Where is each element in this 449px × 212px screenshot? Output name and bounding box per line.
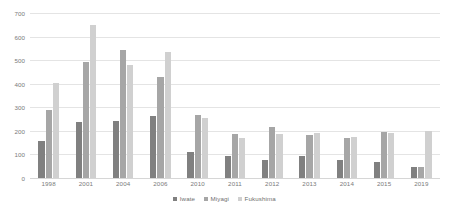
bar-group-2006 xyxy=(150,13,171,178)
chart-title xyxy=(0,0,449,3)
y-axis-tick-600: 600 xyxy=(14,33,25,40)
x-axis: 1998200120042006201020112012201320142015… xyxy=(30,178,440,190)
legend-label-fukushima: Fukushima xyxy=(245,195,276,203)
bar-group-2011 xyxy=(225,13,246,178)
legend-swatch-icon-miyagi xyxy=(204,197,208,201)
bar-group-2001 xyxy=(76,13,97,178)
bar-iwate-2014[interactable] xyxy=(337,160,343,178)
bar-miyagi-2019[interactable] xyxy=(418,167,424,178)
bar-miyagi-2012[interactable] xyxy=(269,127,275,178)
y-axis-tick-500: 500 xyxy=(14,57,25,64)
bar-iwate-1998[interactable] xyxy=(38,141,44,178)
bar-fukushima-2004[interactable] xyxy=(127,65,133,178)
bar-miyagi-2011[interactable] xyxy=(232,134,238,178)
bar-fukushima-2011[interactable] xyxy=(239,138,245,178)
bar-fukushima-2019[interactable] xyxy=(425,131,431,178)
bar-miyagi-2001[interactable] xyxy=(83,62,89,178)
bar-group-1998 xyxy=(38,13,59,178)
y-axis-tick-300: 300 xyxy=(14,104,25,111)
x-axis-tick-2019: 2019 xyxy=(414,178,428,189)
legend-item-miyagi[interactable]: Miyagi xyxy=(204,195,229,203)
x-axis-tick-2013: 2013 xyxy=(302,178,316,189)
x-axis-tick-2015: 2015 xyxy=(377,178,391,189)
y-axis-tick-200: 200 xyxy=(14,127,25,134)
x-axis-tick-2011: 2011 xyxy=(228,178,242,189)
bar-miyagi-1998[interactable] xyxy=(46,110,52,178)
bar-miyagi-2004[interactable] xyxy=(120,50,126,178)
y-axis-tick-700: 700 xyxy=(14,10,25,17)
bar-fukushima-2001[interactable] xyxy=(90,25,96,178)
legend-item-iwate[interactable]: Iwate xyxy=(173,195,195,203)
bar-iwate-2001[interactable] xyxy=(76,122,82,178)
x-axis-tick-2004: 2004 xyxy=(116,178,130,189)
bar-group-2004 xyxy=(113,13,134,178)
x-axis-tick-2001: 2001 xyxy=(79,178,93,189)
bar-fukushima-2014[interactable] xyxy=(351,137,357,178)
bar-iwate-2013[interactable] xyxy=(299,156,305,178)
bar-group-2012 xyxy=(262,13,283,178)
legend-label-miyagi: Miyagi xyxy=(211,195,229,203)
x-axis-tick-2012: 2012 xyxy=(265,178,279,189)
bar-chart: 0100200300400500600700 19982001200420062… xyxy=(0,0,449,212)
bar-group-2015 xyxy=(374,13,395,178)
legend-item-fukushima[interactable]: Fukushima xyxy=(238,195,276,203)
bar-fukushima-2010[interactable] xyxy=(202,118,208,178)
y-axis: 0100200300400500600700 xyxy=(0,13,28,178)
bar-miyagi-2015[interactable] xyxy=(381,132,387,178)
bar-fukushima-2006[interactable] xyxy=(165,52,171,178)
chart-legend: IwateMiyagiFukushima xyxy=(0,193,449,205)
y-axis-tick-400: 400 xyxy=(14,80,25,87)
bar-group-2014 xyxy=(337,13,358,178)
bar-iwate-2015[interactable] xyxy=(374,162,380,178)
bar-miyagi-2014[interactable] xyxy=(344,138,350,178)
x-axis-tick-2014: 2014 xyxy=(340,178,354,189)
bar-iwate-2004[interactable] xyxy=(113,121,119,178)
x-axis-tick-1998: 1998 xyxy=(41,178,55,189)
bar-miyagi-2010[interactable] xyxy=(195,115,201,178)
bar-miyagi-2006[interactable] xyxy=(157,77,163,178)
bars-layer xyxy=(30,13,440,178)
y-axis-tick-100: 100 xyxy=(14,151,25,158)
bar-group-2010 xyxy=(187,13,208,178)
bar-miyagi-2013[interactable] xyxy=(306,135,312,178)
legend-swatch-icon-iwate xyxy=(173,197,177,201)
bar-iwate-2019[interactable] xyxy=(411,167,417,178)
bar-iwate-2012[interactable] xyxy=(262,160,268,178)
x-axis-tick-2006: 2006 xyxy=(153,178,167,189)
y-axis-tick-0: 0 xyxy=(21,175,25,182)
bar-fukushima-2013[interactable] xyxy=(314,133,320,178)
bar-fukushima-2015[interactable] xyxy=(388,133,394,178)
bar-fukushima-2012[interactable] xyxy=(276,134,282,178)
bar-group-2013 xyxy=(299,13,320,178)
bar-group-2019 xyxy=(411,13,432,178)
bar-iwate-2006[interactable] xyxy=(150,116,156,178)
bar-iwate-2010[interactable] xyxy=(187,152,193,178)
bar-iwate-2011[interactable] xyxy=(225,156,231,178)
legend-label-iwate: Iwate xyxy=(180,195,195,203)
x-axis-tick-2010: 2010 xyxy=(191,178,205,189)
legend-swatch-icon-fukushima xyxy=(238,197,242,201)
bar-fukushima-1998[interactable] xyxy=(53,83,59,178)
